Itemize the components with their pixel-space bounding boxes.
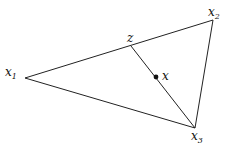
label-z: z (126, 31, 134, 45)
triangle-diagram: x1 x2 x3 z x (0, 0, 228, 147)
point-x-dot (154, 75, 159, 80)
segment-z-x3 (131, 46, 195, 128)
triangle (25, 20, 213, 128)
label-x1: x1 (5, 65, 17, 81)
label-x2: x2 (208, 5, 220, 21)
label-x3: x3 (191, 129, 203, 145)
label-x: x (162, 69, 169, 83)
